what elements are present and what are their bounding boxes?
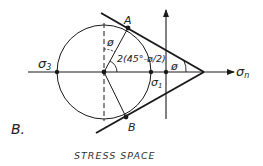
angle-arc-center [110, 61, 117, 72]
radius-to-b [104, 72, 126, 117]
label-phi-top: ø [106, 36, 114, 49]
point-origin [164, 70, 168, 74]
label-point-b: B [128, 121, 136, 134]
point-sigma3 [55, 70, 59, 74]
panel-label: B. [11, 121, 25, 137]
point-center [102, 70, 107, 75]
label-point-a: A [123, 14, 132, 27]
label-angle-expr: 2(45°-ø/2) [117, 53, 166, 64]
label-sigma-n: σn [236, 64, 249, 80]
label-sigma1: σ1 [151, 76, 162, 90]
point-b [124, 115, 129, 120]
radius-to-a [104, 28, 128, 72]
caption: STRESS SPACE [74, 150, 156, 161]
phi-arc-top [104, 49, 115, 52]
point-sigma1 [149, 70, 153, 74]
mohr-circle-diagram: σ3 σ1 σn A B ø ø 2(45°-ø/2) B. STRESS SP… [0, 0, 263, 166]
label-phi-apex: ø [170, 60, 178, 73]
label-sigma3: σ3 [38, 56, 51, 72]
